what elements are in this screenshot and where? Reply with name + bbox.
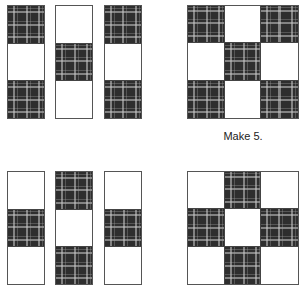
dark-fabric-square (8, 209, 44, 247)
light-fabric-square (8, 246, 44, 284)
dark-fabric-square (105, 209, 141, 247)
light-fabric-square (261, 172, 298, 209)
light-fabric-square (8, 43, 44, 81)
light-fabric-square (56, 80, 92, 118)
bottom-strip-1 (7, 171, 45, 285)
dark-fabric-square (105, 80, 141, 118)
light-fabric-square (8, 172, 44, 209)
dark-fabric-square (8, 80, 44, 118)
light-fabric-square (56, 209, 92, 247)
dark-fabric-square (261, 6, 298, 43)
light-fabric-square (261, 247, 298, 284)
light-fabric-square (105, 172, 141, 209)
dark-fabric-square (225, 247, 262, 284)
dark-fabric-square (261, 81, 298, 118)
light-fabric-square (225, 209, 262, 246)
top-nine-patch-block (187, 5, 299, 119)
light-fabric-square (261, 43, 298, 80)
dark-fabric-square (56, 246, 92, 284)
dark-fabric-square (261, 209, 298, 246)
dark-fabric-square (56, 172, 92, 209)
dark-fabric-square (225, 43, 262, 80)
bottom-strip-2 (55, 171, 93, 285)
light-fabric-square (105, 43, 141, 81)
light-fabric-square (188, 247, 225, 284)
dark-fabric-square (225, 172, 262, 209)
light-fabric-square (56, 6, 92, 43)
dark-fabric-square (105, 6, 141, 43)
dark-fabric-square (188, 81, 225, 118)
bottom-nine-patch-block (187, 171, 299, 285)
top-strip-2 (55, 5, 93, 119)
dark-fabric-square (56, 43, 92, 81)
dark-fabric-square (188, 6, 225, 43)
make-five-caption: Make 5. (187, 130, 299, 142)
light-fabric-square (188, 43, 225, 80)
dark-fabric-square (8, 6, 44, 43)
dark-fabric-square (188, 209, 225, 246)
light-fabric-square (188, 172, 225, 209)
top-strip-1 (7, 5, 45, 119)
light-fabric-square (105, 246, 141, 284)
light-fabric-square (225, 81, 262, 118)
top-strip-3 (104, 5, 142, 119)
bottom-strip-3 (104, 171, 142, 285)
light-fabric-square (225, 6, 262, 43)
